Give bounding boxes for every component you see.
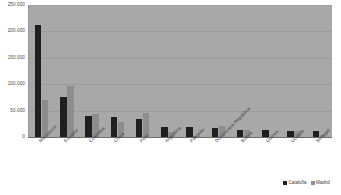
bar-group [212,5,226,137]
y-tick-label: 250.000 [0,2,25,7]
bar-group [136,5,150,137]
y-tick-label: 200.000 [0,28,25,33]
bar-catalua-colombia [85,116,92,137]
y-tick-label: 50.000 [0,108,25,113]
bar-group [186,5,200,137]
legend-label: Cataluña [289,180,307,185]
chart-screenshot: 050.000100.000150.000200.000250.000 Marr… [0,0,341,195]
chart-legend: CataluñaMadrid [283,180,330,185]
legend-item[interactable]: Madrid [311,180,330,185]
y-tick-label: 100.000 [0,81,25,86]
bar-catalua-china [111,117,118,137]
bar-group [35,5,49,137]
bars-layer [29,5,332,137]
bar-group [85,5,99,137]
legend-label: Madrid [316,180,330,185]
bar-group [60,5,74,137]
legend-swatch-icon [283,181,287,185]
bar-catalua-marruecos [35,25,42,137]
bar-group [262,5,276,137]
bar-catalua-ecuador [60,97,67,137]
legend-item[interactable]: Cataluña [283,180,307,185]
bar-group [287,5,301,137]
legend-swatch-icon [311,181,315,185]
y-tick-label: 150.000 [0,55,25,60]
x-axis-category-labels: MarruecosEcuadorColombiaChinaPerúArgenti… [0,138,341,195]
bar-group [313,5,327,137]
bar-group [111,5,125,137]
bar-group [161,5,175,137]
bar-catalua-per [136,119,143,137]
